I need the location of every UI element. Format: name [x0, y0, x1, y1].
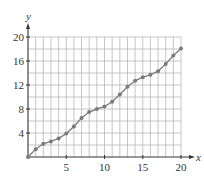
data-point-marker — [171, 54, 175, 58]
data-point-marker — [133, 79, 137, 83]
data-point-marker — [64, 132, 68, 136]
data-point-marker — [118, 93, 122, 97]
data-point-marker — [179, 46, 183, 50]
y-tick-label: 12 — [13, 79, 24, 91]
x-axis-arrow-icon — [189, 155, 195, 159]
y-tick-label: 20 — [13, 31, 25, 43]
tick-labels: 510152048121620 — [13, 31, 187, 173]
data-point-marker — [103, 105, 107, 109]
data-point-marker — [80, 116, 84, 120]
data-point-marker — [164, 62, 168, 66]
data-point-marker — [87, 110, 91, 114]
data-point-marker — [95, 107, 99, 111]
data-point-marker — [156, 69, 160, 73]
data-point-marker — [41, 142, 45, 146]
y-tick-label: 4 — [19, 127, 25, 139]
data-point-marker — [148, 73, 152, 77]
x-tick-label: 10 — [99, 161, 111, 173]
x-tick-label: 5 — [64, 161, 70, 173]
x-tick-label: 15 — [137, 161, 149, 173]
data-point-marker — [110, 100, 114, 104]
grid-lines — [28, 37, 181, 157]
data-point-marker — [34, 147, 38, 151]
data-point-marker — [141, 75, 145, 79]
data-point-marker — [57, 136, 61, 140]
data-point-marker — [72, 124, 76, 128]
y-tick-label: 8 — [19, 103, 25, 115]
x-tick-label: 20 — [176, 161, 188, 173]
line-chart: 510152048121620 x y — [0, 0, 204, 185]
y-axis-label: y — [25, 10, 31, 22]
data-point-marker — [26, 155, 30, 159]
x-axis-label: x — [195, 151, 201, 163]
y-tick-label: 16 — [13, 55, 25, 67]
data-point-marker — [125, 85, 129, 89]
y-axis-arrow-icon — [26, 23, 30, 29]
data-point-marker — [49, 139, 53, 143]
